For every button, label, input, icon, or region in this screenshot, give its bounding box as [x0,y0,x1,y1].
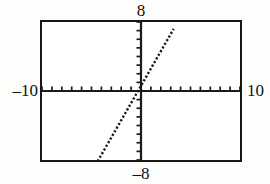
y-max-label: 8 [128,2,154,19]
x-max-label: 10 [247,82,270,99]
series-line [93,29,173,160]
coordinate-plot [42,22,240,160]
plot-frame [40,20,242,162]
line-series [93,29,173,160]
x-min-label: –10 [2,82,38,99]
y-min-label: –8 [126,165,156,182]
graph-screenshot: 8 –10 10 –8 [0,0,270,184]
